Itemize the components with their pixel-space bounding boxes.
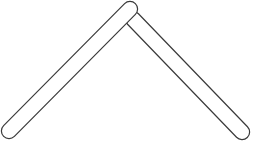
figure-canvas: chevron-shape Two rounded-end bars joine… xyxy=(0,0,253,150)
chevron-figure: chevron-shape Two rounded-end bars joine… xyxy=(0,0,253,150)
